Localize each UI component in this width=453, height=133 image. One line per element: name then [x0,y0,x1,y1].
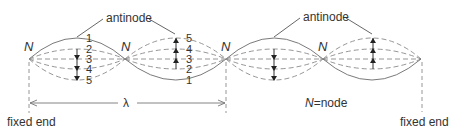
leader-line [346,18,372,34]
node-label: N [121,39,131,54]
fixed-end-label-right: fixed end [400,115,449,129]
wave-segment-2: 5 4 3 2 1 [125,32,226,86]
antinode-label: antinode [303,10,349,24]
node-label: N [221,39,231,54]
legend-symbol: N [305,96,314,110]
node-label: N [24,39,34,54]
arrowhead-icon [74,66,80,71]
node-label: N [318,39,328,54]
leader-line [274,18,300,37]
wavelength-indicator: λ [30,96,225,110]
fixed-end-label-left: fixed end [7,115,56,129]
arrowhead-icon [271,66,277,71]
legend: N=node [305,96,348,110]
legend-text: =node [314,96,348,110]
standing-wave-diagram: 1 2 3 4 5 5 4 3 2 1 [0,0,453,133]
leader-line [149,19,175,34]
wavelength-symbol: λ [123,96,129,110]
arrowhead-icon [370,38,376,43]
position-label: 5 [86,74,92,86]
position-label: 1 [186,74,192,86]
antinode-callout-right: antinode [274,10,372,37]
wave-segment-4 [323,38,421,80]
antinode-label: antinode [106,11,152,25]
wave-segment-1: 1 2 3 4 5 [29,32,125,86]
arrowhead-icon [173,38,179,43]
legend-entry: N=node [305,96,348,110]
wave-segment-3 [226,38,323,81]
